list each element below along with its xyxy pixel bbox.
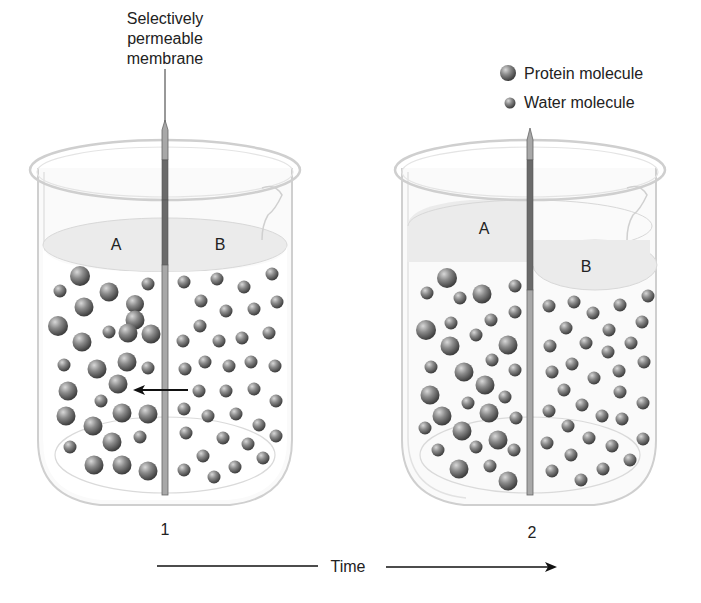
- compartment-b-label: B: [581, 258, 592, 275]
- membrane-label-line3: membrane: [127, 50, 204, 67]
- compartment-b-label: B: [215, 236, 226, 253]
- legend-protein-label: Protein molecule: [524, 65, 643, 82]
- beaker-1-number: 1: [161, 521, 170, 538]
- compartment-a-label: A: [479, 220, 490, 237]
- membrane: [527, 128, 533, 495]
- compartment-a-label: A: [111, 236, 122, 253]
- osmosis-diagram: Selectively permeable membrane Protein m…: [0, 0, 701, 603]
- membrane-label-line2: permeable: [127, 30, 203, 47]
- time-label: Time: [331, 558, 366, 575]
- beaker-2: A B: [395, 128, 665, 541]
- beaker-1: A B: [30, 120, 300, 538]
- beaker-2-number: 2: [528, 524, 537, 541]
- membrane-label-line1: Selectively: [127, 10, 203, 27]
- membrane-label: Selectively permeable membrane: [127, 10, 204, 130]
- legend-water-label: Water molecule: [524, 94, 635, 111]
- protein-molecule-icon: [500, 65, 516, 81]
- water-molecule-icon: [505, 98, 516, 109]
- legend: Protein molecule Water molecule: [500, 65, 643, 111]
- time-axis: Time: [157, 558, 557, 575]
- membrane: [162, 120, 168, 495]
